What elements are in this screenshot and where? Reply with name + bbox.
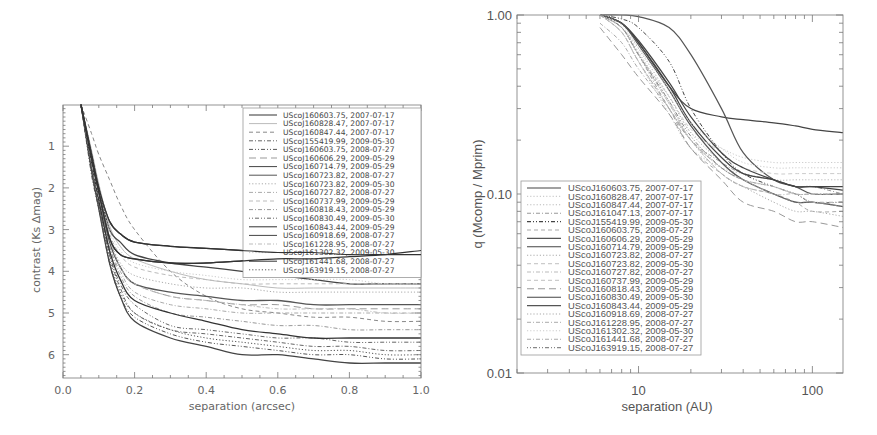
right-x-tick-label: 100: [802, 383, 824, 398]
right-series-line: [600, 15, 843, 187]
left-x-tick-label: 0.2: [126, 384, 144, 397]
left-x-axis-label: separation (arcsec): [189, 400, 295, 413]
left-contrast-chart: 0.00.20.40.60.81.0123456 separation (arc…: [30, 105, 430, 414]
right-y-axis-label: q (Mcomp / Mprim): [470, 139, 485, 248]
left-y-tick-label: 6: [48, 349, 55, 362]
right-mass-ratio-chart: 101001.000.100.01 separation (AU) q (Mco…: [470, 8, 843, 414]
right-legend: UScoJ160603.75, 2007-07-17UScoJ160828.47…: [521, 181, 701, 355]
right-y-tick-label: 0.01: [487, 366, 512, 381]
right-x-axis-label: separation (AU): [621, 399, 712, 414]
right-y-tick-label: 1.00: [487, 8, 512, 23]
right-x-tick-label: 10: [631, 383, 645, 398]
left-y-tick-label: 2: [48, 182, 55, 195]
left-y-tick-label: 4: [48, 265, 55, 278]
left-y-axis-label: contrast (Ks Δmag): [30, 187, 43, 293]
left-x-tick-label: 0.0: [54, 384, 72, 397]
left-y-tick-label: 3: [48, 224, 55, 237]
left-x-tick-label: 1.0: [412, 384, 430, 397]
right-y-tick-label: 0.10: [487, 187, 512, 202]
left-y-tick-label: 1: [48, 140, 55, 153]
right-legend-entry: UScoJ163919.15, 2008-07-27: [568, 342, 693, 353]
left-x-tick-label: 0.4: [197, 384, 215, 397]
figure: 0.00.20.40.60.81.0123456 separation (arc…: [0, 0, 877, 435]
left-y-tick-label: 5: [48, 307, 55, 320]
left-legend-entry: UScoJ163919.15, 2008-07-27: [283, 266, 395, 275]
left-x-tick-label: 0.6: [269, 384, 287, 397]
left-legend: UScoJ160603.75, 2007-07-17UScoJ160828.47…: [81, 105, 421, 278]
left-x-tick-label: 0.8: [341, 384, 359, 397]
